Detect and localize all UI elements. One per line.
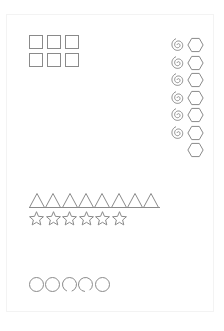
triangles-baseline bbox=[29, 207, 160, 208]
triangle-icon bbox=[78, 193, 94, 208]
circle-icon bbox=[29, 277, 44, 292]
spiral-icon bbox=[171, 56, 184, 69]
star-icon bbox=[62, 211, 77, 226]
triangle-icon bbox=[29, 193, 45, 208]
triangle-icon bbox=[127, 193, 143, 208]
circle-icon bbox=[95, 277, 110, 292]
hexagon-icon bbox=[188, 37, 203, 53]
square-icon bbox=[65, 53, 79, 67]
star-icon bbox=[46, 211, 61, 226]
hexagon-icon bbox=[188, 125, 203, 141]
triangle-icon bbox=[94, 193, 110, 208]
circle-icon bbox=[45, 277, 60, 292]
spiral-icon bbox=[171, 126, 184, 139]
hexagon-icon bbox=[188, 142, 203, 158]
spiral-icon bbox=[171, 108, 184, 121]
triangle-icon bbox=[111, 193, 127, 208]
hexagon-icon bbox=[188, 55, 203, 71]
spiral-icon bbox=[171, 73, 184, 86]
hexagon-icon bbox=[188, 90, 203, 106]
hexagon-icon bbox=[188, 107, 203, 123]
star-icon bbox=[79, 211, 94, 226]
triangle-icon bbox=[45, 193, 61, 208]
circle-icon bbox=[62, 277, 77, 292]
star-icon bbox=[29, 211, 44, 226]
spiral-icon bbox=[171, 38, 184, 51]
hexagon-icon bbox=[188, 72, 203, 88]
square-icon bbox=[29, 53, 43, 67]
star-icon bbox=[112, 211, 127, 226]
square-icon bbox=[47, 35, 61, 49]
spiral-icon bbox=[171, 91, 184, 104]
square-icon bbox=[65, 35, 79, 49]
square-icon bbox=[29, 35, 43, 49]
triangle-icon bbox=[143, 193, 159, 208]
square-icon bbox=[47, 53, 61, 67]
triangle-icon bbox=[62, 193, 78, 208]
star-icon bbox=[95, 211, 110, 226]
circle-icon bbox=[78, 277, 93, 292]
